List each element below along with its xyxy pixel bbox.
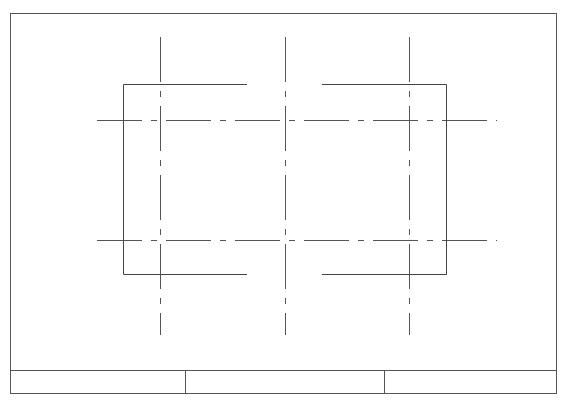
title-block-cell-1 <box>10 370 185 393</box>
title-block <box>10 370 556 393</box>
title-block-cell-2 <box>185 370 384 393</box>
drawing-border-frame <box>11 14 557 394</box>
horizontal-centerlines <box>97 121 497 241</box>
drawing-canvas <box>0 0 566 409</box>
title-block-cell-3 <box>384 370 556 393</box>
cad-drawing <box>0 0 566 409</box>
vertical-centerlines <box>161 37 410 335</box>
